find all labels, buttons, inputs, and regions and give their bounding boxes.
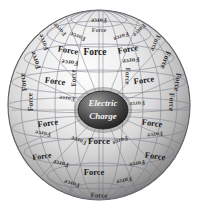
sphere-diagram-canvas: ForceForceForceForceForceForceForceForce…	[0, 0, 205, 213]
force-label: Force	[83, 47, 106, 57]
force-label: Force	[91, 17, 107, 25]
force-label: Force	[90, 191, 107, 200]
force-label: Force	[92, 27, 107, 33]
force-label: Force	[167, 93, 177, 112]
electric-charge-force-diagram: ForceForceForceForceForceForceForceForce…	[0, 0, 205, 213]
force-label: Force	[88, 136, 110, 146]
core-label-line-1: Electric	[88, 98, 118, 108]
force-label: Force	[69, 69, 78, 86]
force-label: Force	[123, 67, 132, 84]
electric-charge-core: Electric Charge	[74, 87, 132, 133]
force-label: Force	[25, 92, 35, 111]
force-label: Force	[84, 167, 105, 177]
core-label-line-2: Charge	[89, 111, 117, 121]
core-sphere	[78, 91, 128, 129]
